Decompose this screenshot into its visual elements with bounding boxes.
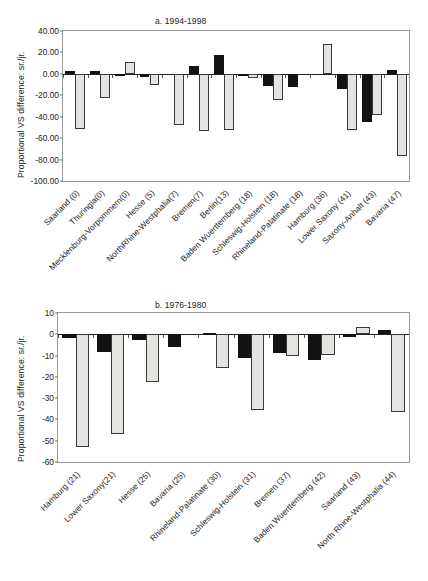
x-tick-label: Baden Wuerttemberg (42) [252, 469, 328, 545]
x-tick-label: Hesse (25) [116, 469, 152, 505]
panel-b-x-axis-labels: Hamburg (21)Lower Saxony(21)Hesse (25)Ba… [0, 290, 428, 581]
panel-b-1976-1980: b. 1976-1980 Proportional VS difference:… [0, 290, 428, 581]
panel-a-1994-1998: a. 1994-1998 Proportional VS difference:… [0, 0, 428, 290]
x-tick-label: Schleswig-Holstein (31) [188, 469, 258, 539]
panel-a-x-axis-labels: Saarland (0)Thuringia(0)Mecklenburg-Vorp… [0, 0, 428, 290]
figure-two-panel-bar-charts: a. 1994-1998 Proportional VS difference:… [0, 0, 428, 581]
